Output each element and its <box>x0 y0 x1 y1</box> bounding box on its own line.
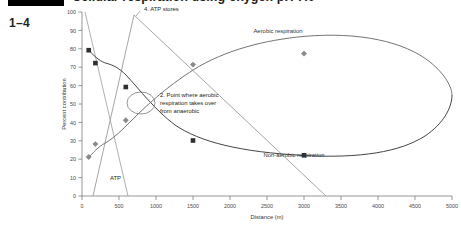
series-label-non-aerobic: Non-aerobic respiration <box>263 152 324 158</box>
y-ticks <box>79 12 83 196</box>
figure-page: Cellular respiration using oxygen pH 7.0… <box>0 0 461 225</box>
data-point-marker <box>86 48 91 53</box>
x-tick-label: 3500 <box>335 203 347 209</box>
y-tick-label: 60 <box>70 83 76 89</box>
x-tick-label: 2500 <box>261 203 273 209</box>
x-ticks <box>82 196 452 200</box>
annotation-crossover-line1: 2. Point where aerobic <box>160 92 219 98</box>
y-tick-label: 90 <box>70 28 76 34</box>
y-tick-label: 10 <box>70 175 76 181</box>
chart-svg: 100 90 80 70 60 50 40 30 20 10 0 <box>0 0 461 225</box>
aerobic-curve <box>89 35 452 157</box>
y-tick-label: 40 <box>70 120 76 126</box>
axes: 100 90 80 70 60 50 40 30 20 10 0 <box>61 9 458 220</box>
annotation-crossover-line3: from anaerobic <box>160 108 199 114</box>
atp-line <box>85 12 128 196</box>
y-tick-labels: 100 90 80 70 60 50 40 30 20 10 0 <box>67 9 76 199</box>
y-axis-title: Percent contribution <box>61 78 67 130</box>
x-tick-label: 5000 <box>446 203 458 209</box>
x-tick-label: 1000 <box>150 203 162 209</box>
series-aerobic <box>86 35 452 160</box>
y-tick-label: 0 <box>73 193 76 199</box>
data-point-marker <box>123 117 129 123</box>
data-point-marker <box>301 51 307 57</box>
x-tick-label: 4500 <box>409 203 421 209</box>
chart-canvas: 100 90 80 70 60 50 40 30 20 10 0 <box>0 0 461 225</box>
x-tick-label: 500 <box>115 203 124 209</box>
series-label-aerobic: Aerobic respiration <box>253 28 302 34</box>
data-point-marker <box>93 61 98 66</box>
y-tick-label: 100 <box>67 9 76 15</box>
x-tick-label: 1500 <box>187 203 199 209</box>
y-tick-label: 50 <box>70 101 76 107</box>
x-tick-label: 3000 <box>298 203 310 209</box>
atp-stores-leader-line <box>136 11 140 16</box>
y-tick-label: 70 <box>70 64 76 70</box>
data-point-marker <box>92 141 98 147</box>
y-tick-label: 30 <box>70 138 76 144</box>
x-axis-title: Distance (m) <box>251 214 284 220</box>
y-tick-label: 80 <box>70 46 76 52</box>
x-tick-label: 4000 <box>372 203 384 209</box>
non-aerobic-curve <box>89 51 452 157</box>
data-point-marker <box>191 138 196 143</box>
x-tick-labels: 0 500 1000 1500 2000 2500 3000 3500 4000… <box>81 203 459 209</box>
annotation-atp-stores: 4. ATP stores <box>144 6 179 12</box>
series-non-aerobic <box>86 48 452 158</box>
data-point-marker <box>124 85 129 90</box>
y-tick-label: 20 <box>70 156 76 162</box>
data-point-marker <box>190 62 196 68</box>
series-atp <box>85 12 128 196</box>
x-tick-label: 2000 <box>224 203 236 209</box>
annotation-atp: ATP <box>110 175 121 181</box>
x-tick-label: 0 <box>81 203 84 209</box>
annotation-crossover-line2: respiration takes over <box>160 100 216 106</box>
